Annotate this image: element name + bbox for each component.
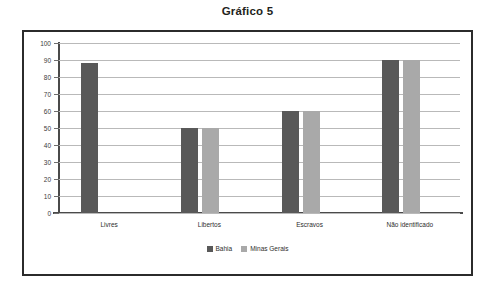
y-axis-tick — [54, 94, 59, 95]
y-axis-label: 50 — [44, 125, 51, 132]
bar — [282, 111, 299, 213]
legend-label: Minas Gerais — [250, 245, 288, 252]
gridline — [59, 213, 460, 214]
y-axis-label: 30 — [44, 159, 51, 166]
y-axis-tick — [54, 213, 59, 214]
legend-label: Bahia — [216, 245, 233, 252]
y-axis-label: 10 — [44, 193, 51, 200]
x-axis-label: Livres — [100, 221, 117, 228]
bar — [382, 60, 399, 213]
y-axis-tick — [54, 77, 59, 78]
bar — [202, 128, 219, 213]
legend-item: Bahia — [207, 245, 233, 252]
y-axis-tick — [54, 128, 59, 129]
chart-figure: Gráfico 5 0102030405060708090100 LivresL… — [0, 0, 495, 293]
bar-group: Libertos — [181, 43, 237, 213]
y-axis-tick — [54, 145, 59, 146]
legend-swatch-icon — [241, 246, 247, 252]
y-axis-tick — [54, 60, 59, 61]
y-axis-label: 20 — [44, 176, 51, 183]
y-axis-tick — [54, 111, 59, 112]
y-axis-tick — [54, 179, 59, 180]
x-axis-label: Escravos — [296, 221, 323, 228]
y-axis-label: 100 — [40, 40, 51, 47]
y-axis-label: 70 — [44, 91, 51, 98]
bar — [303, 111, 320, 213]
y-axis-tick — [54, 43, 59, 44]
y-axis-label: 60 — [44, 108, 51, 115]
bar — [181, 128, 198, 213]
plot-area: 0102030405060708090100 LivresLibertosEsc… — [59, 43, 460, 213]
chart-legend: BahiaMinas Gerais — [22, 245, 473, 252]
bar-group: Livres — [81, 43, 137, 213]
y-axis-label: 0 — [47, 210, 51, 217]
y-axis-tick — [54, 196, 59, 197]
bar-group: Não identificado — [382, 43, 438, 213]
y-axis-tick — [54, 162, 59, 163]
legend-item: Minas Gerais — [241, 245, 288, 252]
y-axis-label: 90 — [44, 57, 51, 64]
x-axis-label: Não identificado — [387, 221, 434, 228]
x-axis-label: Libertos — [198, 221, 221, 228]
plot-wrapper: 0102030405060708090100 LivresLibertosEsc… — [22, 30, 473, 276]
legend-swatch-icon — [207, 246, 213, 252]
bar — [81, 63, 98, 213]
y-axis-label: 40 — [44, 142, 51, 149]
y-axis-label: 80 — [44, 74, 51, 81]
chart-title: Gráfico 5 — [0, 5, 495, 17]
bar — [403, 60, 420, 213]
bar-group: Escravos — [282, 43, 338, 213]
